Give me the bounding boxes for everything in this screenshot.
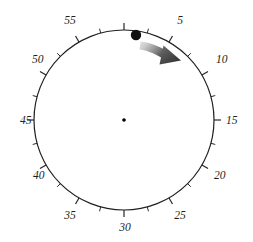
- major-tick: [202, 165, 208, 169]
- tick-label-25: 25: [174, 209, 186, 221]
- dial-center-dot: [122, 118, 126, 122]
- tick-label-30: 30: [118, 221, 131, 233]
- tick-label-20: 20: [214, 169, 226, 181]
- dial-svg: 510152025303540455055: [0, 0, 253, 242]
- major-tick: [169, 36, 173, 42]
- major-tick: [202, 72, 208, 76]
- minor-tick: [147, 29, 148, 33]
- tick-label-45: 45: [20, 114, 32, 126]
- minor-tick: [147, 207, 148, 211]
- tick-labels-group: 510152025303540455055: [20, 14, 238, 233]
- major-tick: [76, 198, 80, 204]
- tick-label-15: 15: [226, 114, 238, 126]
- tick-label-5: 5: [177, 14, 183, 26]
- minor-tick: [100, 29, 101, 33]
- minor-tick: [211, 143, 215, 144]
- tick-label-50: 50: [32, 53, 44, 65]
- minor-tick: [57, 184, 60, 187]
- minor-tick: [33, 143, 37, 144]
- position-marker-dot: [131, 30, 141, 40]
- tick-label-35: 35: [63, 209, 76, 221]
- major-tick: [40, 72, 46, 76]
- clock-dial-figure: 510152025303540455055: [0, 0, 253, 242]
- major-tick: [169, 198, 173, 204]
- tick-label-10: 10: [216, 53, 228, 65]
- minor-tick: [188, 53, 191, 56]
- tick-label-40: 40: [33, 169, 45, 181]
- minor-tick: [188, 184, 191, 187]
- minor-tick: [100, 207, 101, 211]
- minor-tick: [33, 96, 37, 97]
- major-tick: [40, 165, 46, 169]
- major-tick: [76, 36, 80, 42]
- minor-tick: [57, 53, 60, 56]
- minor-tick: [211, 96, 215, 97]
- tick-label-55: 55: [64, 14, 76, 26]
